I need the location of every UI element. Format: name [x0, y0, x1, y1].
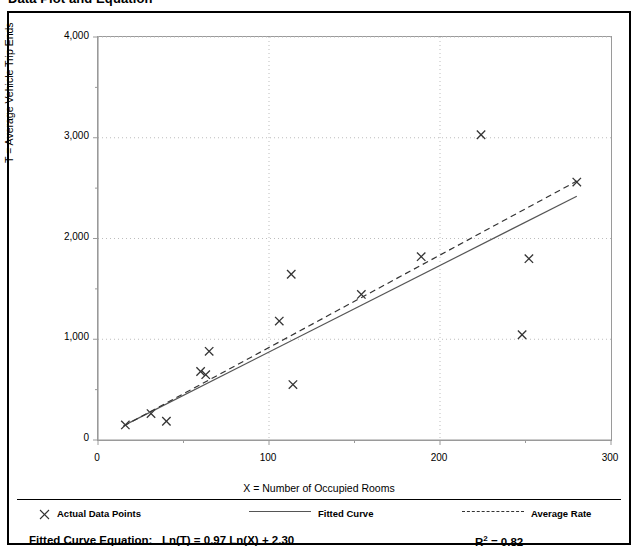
data-point-marker — [205, 347, 213, 355]
dashed-line-swatch-icon — [462, 511, 524, 512]
data-point-marker — [289, 380, 297, 388]
x-axis-title: X = Number of Occupied Rooms — [9, 482, 629, 494]
y-tick-3000: 3,000 — [39, 131, 89, 141]
y-tick-0: 0 — [39, 433, 89, 443]
equation-label: Fitted Curve Equation: — [29, 534, 152, 546]
data-point-marker — [162, 417, 170, 425]
plot-area — [97, 36, 612, 441]
y-axis-title: T = Average Vehicle Trip Ends — [3, 22, 15, 163]
legend-item-fitted-curve: Fitted Curve — [249, 507, 373, 519]
equation-expression: Ln(T) = 0.97 Ln(X) + 2.30 — [162, 534, 294, 546]
scatter-plot-svg — [98, 37, 611, 440]
data-point-marker — [275, 317, 283, 325]
solid-line-swatch-icon — [249, 511, 311, 512]
cross-marker-icon — [39, 509, 50, 520]
x-tick-100: 100 — [243, 453, 293, 463]
data-point-group — [121, 131, 581, 430]
x-tick-0: 0 — [72, 453, 122, 463]
r-squared-value: R2 = 0.82 — [475, 534, 523, 548]
average-rate-line — [124, 181, 577, 426]
data-point-marker — [287, 270, 295, 278]
y-tick-1000: 1,000 — [39, 332, 89, 342]
r-squared-number: = 0.82 — [488, 536, 524, 548]
x-tick-200: 200 — [414, 453, 464, 463]
legend: Actual Data Points Fitted Curve Average … — [27, 505, 611, 525]
legend-label-fitted-curve: Fitted Curve — [318, 508, 373, 519]
legend-label-average-rate: Average Rate — [531, 508, 591, 519]
legend-item-average-rate: Average Rate — [462, 507, 591, 519]
data-point-marker — [196, 367, 204, 375]
fitted-curve-line — [124, 196, 577, 425]
y-tick-2000: 2,000 — [39, 232, 89, 242]
data-point-marker — [525, 254, 533, 262]
data-point-marker — [202, 371, 210, 379]
x-tick-300: 300 — [585, 453, 635, 463]
fitted-curve-equation: Fitted Curve Equation: Ln(T) = 0.97 Ln(X… — [29, 534, 294, 546]
data-point-marker — [417, 252, 425, 260]
data-point-marker — [477, 131, 485, 139]
figure-root: Data Plot and Equation 4,000 3,000 2,000… — [0, 0, 639, 553]
page-title: Data Plot and Equation — [8, 0, 152, 6]
legend-label-actual-data-points: Actual Data Points — [57, 508, 141, 519]
legend-item-actual-data-points: Actual Data Points — [39, 507, 141, 519]
y-tick-4000: 4,000 — [39, 31, 89, 41]
legend-divider — [17, 499, 621, 500]
figure-box: 4,000 3,000 2,000 1,000 0 0 100 200 300 … — [7, 11, 631, 545]
data-point-marker — [518, 331, 526, 339]
